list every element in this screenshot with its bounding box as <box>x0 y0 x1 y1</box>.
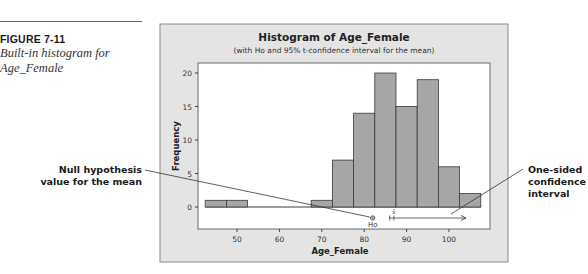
y-tick-label: 0 <box>187 203 192 212</box>
chart-title: Histogram of Age_Female <box>258 31 409 44</box>
x-tick-label: 80 <box>359 235 369 244</box>
histogram-bar <box>375 73 396 207</box>
histogram-bar <box>205 200 226 207</box>
ho-label: Ho <box>368 221 378 229</box>
histogram-bar <box>311 200 332 207</box>
y-tick-label: 20 <box>182 69 192 78</box>
histogram-bar <box>332 160 353 207</box>
histogram-bar <box>396 107 417 208</box>
x-tick-label: 60 <box>275 235 285 244</box>
histogram-bar <box>417 80 438 207</box>
callout-null-hypothesis: Null hypothesis value for the mean <box>30 164 142 188</box>
y-tick-label: 5 <box>187 170 192 179</box>
x-tick-label: 90 <box>402 235 412 244</box>
chart-subtitle: (with Ho and 95% t-confidence interval f… <box>233 46 434 55</box>
histogram-bar <box>460 194 481 207</box>
histogram-bar <box>354 113 375 207</box>
x-tick-label: 100 <box>442 235 457 244</box>
y-tick-label: 10 <box>182 136 192 145</box>
y-tick-label: 15 <box>182 103 192 112</box>
x-tick-label: 50 <box>232 235 242 244</box>
xbar-label: x̄ <box>392 208 396 215</box>
callout-confidence-interval: One-sided confidence interval <box>528 164 588 200</box>
y-axis-label: Frequency <box>171 121 181 171</box>
x-tick-label: 70 <box>317 235 327 244</box>
histogram-bar <box>438 167 459 207</box>
x-axis-label: Age_Female <box>311 246 368 256</box>
histogram-bar <box>226 200 247 207</box>
